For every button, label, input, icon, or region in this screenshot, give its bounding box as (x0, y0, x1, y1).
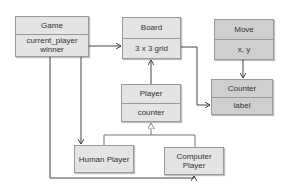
class-human-player-name: Human Player (75, 146, 133, 172)
class-game-attr: winner (40, 45, 64, 54)
class-player-attr: counter (122, 103, 180, 122)
class-move-attr: x, y (215, 39, 273, 59)
class-game: Game current_player winner (15, 16, 89, 57)
class-counter-name: Counter (212, 80, 272, 97)
class-game-name: Game (16, 17, 88, 34)
class-game-attr: current_player (26, 36, 77, 45)
class-computer-player: Computer Player (164, 147, 224, 175)
class-counter-attr: label (212, 97, 272, 115)
class-player-name: Player (122, 85, 180, 103)
class-counter: Counter label (211, 79, 273, 115)
class-board-name: Board (123, 18, 180, 38)
class-board-attr: 3 x 3 grid (123, 38, 180, 59)
class-board: Board 3 x 3 grid (122, 17, 181, 59)
class-move-name: Move (215, 20, 273, 39)
class-move: Move x, y (214, 19, 274, 60)
class-computer-player-name: Computer Player (165, 148, 223, 174)
class-player: Player counter (121, 84, 181, 122)
class-human-player: Human Player (74, 145, 134, 173)
